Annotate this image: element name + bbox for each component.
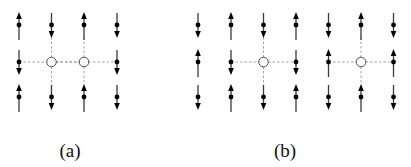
spin-down-arrow-icon — [114, 85, 120, 110]
spin-down-arrow-icon — [195, 13, 201, 38]
spin-up-arrow-icon — [326, 49, 332, 77]
hole-icon — [79, 57, 89, 67]
spin-down-arrow-icon — [391, 13, 397, 38]
spin-up-arrow-icon — [228, 12, 234, 40]
spin-down-arrow-icon — [114, 13, 120, 38]
spin-down-arrow-icon — [261, 13, 267, 38]
spin-up-arrow-icon — [391, 49, 397, 77]
spin-down-arrow-icon — [261, 85, 267, 110]
panel-b-lattice — [195, 12, 396, 112]
spin-up-arrow-icon — [358, 12, 364, 40]
panel-a-lattice — [16, 12, 120, 112]
spin-up-arrow-icon — [293, 12, 299, 40]
panel-a-caption: (a) — [59, 140, 80, 162]
hole-icon — [259, 57, 269, 67]
spin-up-arrow-icon — [293, 84, 299, 112]
panel-b-caption: (b) — [274, 140, 296, 162]
spin-down-arrow-icon — [195, 85, 201, 110]
spin-down-arrow-icon — [326, 85, 332, 110]
spin-down-arrow-icon — [228, 50, 234, 75]
spin-up-arrow-icon — [81, 12, 87, 40]
spin-up-arrow-icon — [195, 49, 201, 77]
spin-up-arrow-icon — [358, 84, 364, 112]
spin-up-arrow-icon — [16, 84, 22, 112]
spin-up-arrow-icon — [16, 12, 22, 40]
spin-down-arrow-icon — [293, 50, 299, 75]
hole-icon — [356, 57, 366, 67]
spin-down-arrow-icon — [391, 85, 397, 110]
spin-down-arrow-icon — [114, 50, 120, 75]
spin-down-arrow-icon — [326, 13, 332, 38]
spin-down-arrow-icon — [49, 13, 55, 38]
spin-up-arrow-icon — [228, 84, 234, 112]
spin-down-arrow-icon — [49, 85, 55, 110]
hole-icon — [47, 57, 57, 67]
spin-up-arrow-icon — [81, 84, 87, 112]
spin-down-arrow-icon — [16, 50, 22, 75]
